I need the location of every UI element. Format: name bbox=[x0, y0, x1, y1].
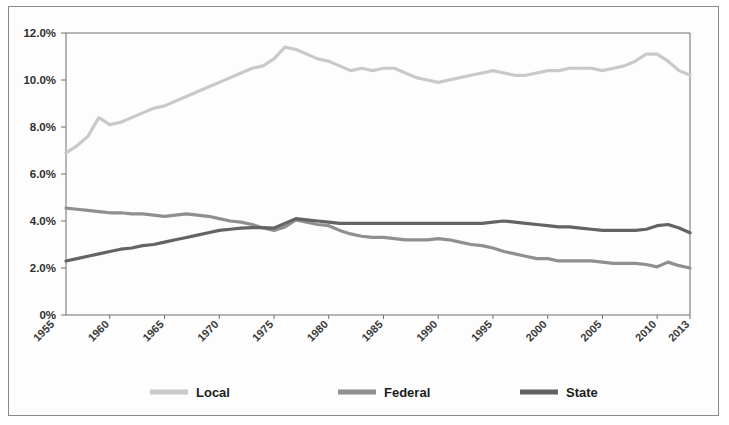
y-tick-label: 4.0% bbox=[30, 215, 56, 227]
x-tick-label: 2000 bbox=[523, 318, 549, 344]
series-line-local bbox=[66, 47, 690, 153]
x-tick-label: 1955 bbox=[31, 318, 57, 344]
y-tick-label: 6.0% bbox=[30, 168, 56, 180]
chart-svg: 0%2.0%4.0%6.0%8.0%10.0%12.0% 19551960196… bbox=[0, 0, 729, 425]
x-tick-label: 2005 bbox=[578, 318, 604, 344]
chart-page: 0%2.0%4.0%6.0%8.0%10.0%12.0% 19551960196… bbox=[0, 0, 729, 425]
x-tick-label: 1975 bbox=[250, 318, 276, 344]
series-line-state bbox=[66, 219, 690, 261]
legend-label-federal[interactable]: Federal bbox=[384, 385, 430, 400]
x-tick-label: 1960 bbox=[85, 318, 111, 344]
x-tick-label: 2010 bbox=[633, 318, 659, 344]
legend-label-state[interactable]: State bbox=[566, 385, 598, 400]
x-tick-label: 1990 bbox=[414, 318, 440, 344]
x-axis-tick-group: 1955196019651970197519801985199019952000… bbox=[31, 315, 692, 344]
x-tick-label: 1965 bbox=[140, 318, 166, 344]
y-tick-label: 12.0% bbox=[23, 27, 56, 39]
chart-legend: LocalFederalState bbox=[150, 385, 598, 400]
x-tick-label: 2013 bbox=[666, 318, 692, 344]
y-tick-label: 8.0% bbox=[30, 121, 56, 133]
series-group bbox=[66, 47, 690, 268]
y-axis-tick-group: 0%2.0%4.0%6.0%8.0%10.0%12.0% bbox=[23, 27, 66, 321]
legend-label-local[interactable]: Local bbox=[196, 385, 230, 400]
x-tick-label: 1970 bbox=[195, 318, 221, 344]
x-tick-label: 1995 bbox=[469, 318, 495, 344]
x-tick-label: 1980 bbox=[304, 318, 330, 344]
x-tick-label: 1985 bbox=[359, 318, 385, 344]
y-tick-label: 2.0% bbox=[30, 262, 56, 274]
line-chart: 0%2.0%4.0%6.0%8.0%10.0%12.0% 19551960196… bbox=[0, 0, 729, 425]
y-tick-label: 10.0% bbox=[23, 74, 56, 86]
series-line-federal bbox=[66, 208, 690, 268]
